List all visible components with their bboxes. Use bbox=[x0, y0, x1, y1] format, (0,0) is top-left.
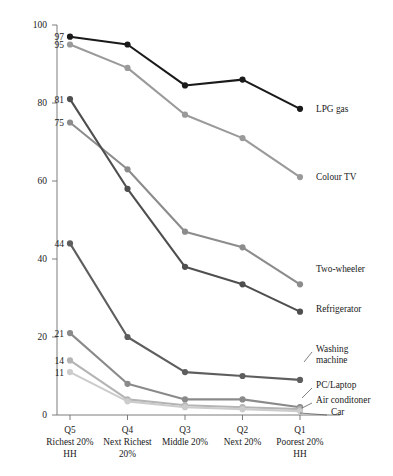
series-line bbox=[70, 45, 300, 178]
data-point bbox=[124, 41, 130, 47]
data-point bbox=[297, 309, 303, 315]
x-tick-label: Q4 bbox=[122, 425, 134, 435]
data-point bbox=[297, 377, 303, 383]
x-tick-sublabel: Next 20% bbox=[224, 437, 262, 447]
data-point bbox=[239, 396, 245, 402]
data-point-label: 11 bbox=[55, 368, 64, 378]
y-tick-label: 80 bbox=[38, 98, 48, 108]
x-tick-label: Q1 bbox=[294, 425, 306, 435]
data-point bbox=[67, 357, 73, 363]
y-tick-label: 0 bbox=[42, 410, 47, 420]
series-label: Refrigerator bbox=[316, 304, 362, 314]
series-label: Two-wheeler bbox=[316, 264, 366, 274]
series-label: PC/Laptop bbox=[316, 380, 357, 390]
series-line bbox=[70, 99, 300, 312]
data-point bbox=[182, 404, 188, 410]
series-label: LPG gas bbox=[316, 104, 349, 114]
x-axis-ticks: Q5Richest 20%HHQ4Next Richest20%Q3Middle… bbox=[46, 415, 324, 459]
data-point bbox=[67, 34, 73, 40]
x-tick-sublabel: Middle 20% bbox=[162, 437, 208, 447]
data-point-label: 81 bbox=[55, 95, 65, 105]
data-point bbox=[67, 96, 73, 102]
x-tick-sublabel: Next Richest bbox=[103, 437, 152, 447]
series-colour-tv: 95Colour TV bbox=[55, 40, 357, 182]
data-point bbox=[182, 264, 188, 270]
data-point bbox=[297, 106, 303, 112]
series-two-wheeler: 75Two-wheeler bbox=[55, 118, 366, 288]
series-line bbox=[70, 37, 300, 109]
data-point-label: 44 bbox=[55, 239, 65, 249]
data-point bbox=[182, 82, 188, 88]
x-tick-sublabel: Richest 20% bbox=[46, 437, 94, 447]
data-point bbox=[67, 41, 73, 47]
series-label: Washing bbox=[316, 344, 349, 354]
x-tick-sublabel: Poorest 20% bbox=[276, 437, 324, 447]
data-point-label: 21 bbox=[55, 329, 65, 339]
data-point bbox=[124, 65, 130, 71]
series-refrigerator: 81Refrigerator bbox=[55, 95, 363, 315]
series-pc-laptop: 21PC/Laptop bbox=[55, 329, 357, 411]
x-tick-label: Q3 bbox=[179, 425, 191, 435]
series-washing-machine: 44Washingmachine bbox=[55, 239, 349, 383]
data-point bbox=[124, 334, 130, 340]
y-axis-ticks: 020406080100 bbox=[33, 20, 57, 420]
data-point bbox=[239, 281, 245, 287]
series-car: 11Car bbox=[55, 368, 345, 418]
data-point bbox=[182, 229, 188, 235]
x-tick-label: Q2 bbox=[237, 425, 249, 435]
series-label-leader bbox=[304, 352, 312, 362]
series-label: Air conditoner bbox=[316, 395, 371, 405]
data-point bbox=[124, 381, 130, 387]
data-point bbox=[239, 373, 245, 379]
data-point bbox=[124, 166, 130, 172]
y-tick-label: 40 bbox=[38, 254, 48, 264]
series-label: machine bbox=[316, 355, 348, 365]
data-point bbox=[67, 240, 73, 246]
x-tick-sublabel: 20% bbox=[119, 449, 136, 459]
data-point bbox=[297, 281, 303, 287]
series-label: Car bbox=[331, 407, 345, 417]
data-point-label: 95 bbox=[55, 40, 65, 50]
data-point-label: 75 bbox=[55, 118, 65, 128]
data-point bbox=[182, 369, 188, 375]
data-point bbox=[67, 369, 73, 375]
line-chart: 020406080100Q5Richest 20%HHQ4Next Riches… bbox=[0, 0, 393, 476]
series-line bbox=[70, 123, 300, 285]
series-label-leader bbox=[302, 388, 312, 398]
y-tick-label: 100 bbox=[33, 20, 48, 30]
data-point-label: 14 bbox=[55, 356, 65, 366]
x-tick-label: Q5 bbox=[64, 425, 76, 435]
x-tick-sublabel: HH bbox=[293, 449, 307, 459]
data-point bbox=[67, 119, 73, 125]
data-point bbox=[297, 174, 303, 180]
series-label: Colour TV bbox=[316, 172, 357, 182]
x-tick-sublabel: HH bbox=[63, 449, 77, 459]
data-point bbox=[239, 244, 245, 250]
y-tick-label: 20 bbox=[38, 332, 48, 342]
series-lpg-gas: 97LPG gas bbox=[55, 32, 349, 114]
data-point bbox=[182, 112, 188, 118]
data-point bbox=[124, 398, 130, 404]
data-point bbox=[239, 135, 245, 141]
y-tick-label: 60 bbox=[38, 176, 48, 186]
data-point bbox=[239, 406, 245, 412]
data-point bbox=[239, 77, 245, 83]
chart-container: 020406080100Q5Richest 20%HHQ4Next Riches… bbox=[0, 0, 393, 476]
data-point bbox=[182, 396, 188, 402]
data-point bbox=[67, 330, 73, 336]
data-point bbox=[124, 186, 130, 192]
